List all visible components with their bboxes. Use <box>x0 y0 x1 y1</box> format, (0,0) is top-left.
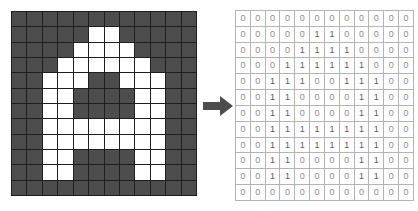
matrix-cell: 0 <box>384 58 399 74</box>
matrix-cell: 0 <box>354 42 369 58</box>
pixel-cell <box>120 27 134 41</box>
pixel-cell <box>43 27 57 41</box>
matrix-cell: 0 <box>324 74 339 90</box>
matrix-cell: 0 <box>310 90 325 106</box>
pixel-cell <box>27 12 41 26</box>
pixel-cell <box>166 104 180 118</box>
matrix-cell: 1 <box>354 137 369 153</box>
matrix-cell: 1 <box>265 137 280 153</box>
matrix-cell: 0 <box>384 74 399 90</box>
pixel-cell <box>105 43 119 57</box>
matrix-cell: 0 <box>250 11 265 27</box>
pixel-cell <box>151 135 165 149</box>
matrix-cell: 0 <box>236 74 251 90</box>
pixel-cell <box>166 73 180 87</box>
pixel-cell <box>135 104 149 118</box>
matrix-cell: 0 <box>250 153 265 169</box>
matrix-cell: 0 <box>310 11 325 27</box>
matrix-cell: 0 <box>236 169 251 185</box>
pixel-cell <box>43 181 57 195</box>
pixel-cell <box>27 89 41 103</box>
matrix-body: 0000000000000000011000000000111100000001… <box>236 11 414 201</box>
pixel-cell <box>58 27 72 41</box>
matrix-cell: 0 <box>384 90 399 106</box>
pixel-cell <box>58 165 72 179</box>
matrix-cell: 1 <box>265 121 280 137</box>
pixel-cell <box>43 12 57 26</box>
pixel-cell <box>12 89 26 103</box>
binary-matrix-table: 0000000000000000011000000000111100000001… <box>235 10 414 201</box>
matrix-cell: 1 <box>280 169 295 185</box>
matrix-cell: 0 <box>295 169 310 185</box>
matrix-cell: 0 <box>399 90 414 106</box>
pixel-cell <box>182 43 196 57</box>
matrix-cell: 0 <box>399 137 414 153</box>
matrix-cell: 0 <box>384 26 399 42</box>
matrix-cell: 0 <box>399 58 414 74</box>
pixel-cell <box>58 181 72 195</box>
pixel-cell <box>58 119 72 133</box>
arrow-right-icon <box>203 93 233 119</box>
pixel-cell <box>182 58 196 72</box>
matrix-cell: 1 <box>295 58 310 74</box>
matrix-cell: 1 <box>324 121 339 137</box>
matrix-cell: 0 <box>324 185 339 201</box>
matrix-cell: 1 <box>310 58 325 74</box>
pixel-cell <box>105 150 119 164</box>
pixel-cell <box>89 58 103 72</box>
pixel-cell <box>120 89 134 103</box>
matrix-cell: 0 <box>295 11 310 27</box>
pixel-cell <box>135 150 149 164</box>
pixel-cell <box>89 27 103 41</box>
pixel-cell <box>12 181 26 195</box>
matrix-cell: 0 <box>236 90 251 106</box>
matrix-cell: 0 <box>250 58 265 74</box>
pixel-cell <box>12 73 26 87</box>
matrix-cell: 1 <box>339 58 354 74</box>
matrix-cell: 1 <box>265 153 280 169</box>
pixel-cell <box>166 181 180 195</box>
matrix-cell: 0 <box>250 42 265 58</box>
matrix-cell: 0 <box>354 26 369 42</box>
matrix-cell: 1 <box>310 42 325 58</box>
matrix-cell: 0 <box>265 185 280 201</box>
matrix-cell: 0 <box>384 11 399 27</box>
matrix-cell: 1 <box>295 137 310 153</box>
matrix-cell: 0 <box>250 121 265 137</box>
matrix-cell: 0 <box>399 74 414 90</box>
matrix-cell: 0 <box>339 169 354 185</box>
matrix-cell: 0 <box>295 90 310 106</box>
matrix-cell: 0 <box>295 26 310 42</box>
matrix-cell: 0 <box>280 11 295 27</box>
pixel-cell <box>58 135 72 149</box>
matrix-cell: 1 <box>265 90 280 106</box>
matrix-cell: 1 <box>324 58 339 74</box>
pixel-cell <box>43 73 57 87</box>
matrix-row: 000011110000 <box>236 42 414 58</box>
matrix-row: 001100001100 <box>236 105 414 121</box>
pixel-cell <box>135 119 149 133</box>
pixel-cell <box>27 135 41 149</box>
pixel-cell <box>120 150 134 164</box>
matrix-cell: 0 <box>324 153 339 169</box>
matrix-cell: 0 <box>399 26 414 42</box>
pixel-cell <box>166 58 180 72</box>
pixel-cell <box>135 73 149 87</box>
matrix-cell: 0 <box>399 169 414 185</box>
pixel-cell <box>120 43 134 57</box>
pixel-cell <box>135 135 149 149</box>
pixel-cell <box>43 119 57 133</box>
matrix-cell: 1 <box>310 121 325 137</box>
matrix-cell: 0 <box>339 90 354 106</box>
matrix-cell: 1 <box>369 105 384 121</box>
matrix-cell: 0 <box>310 185 325 201</box>
pixel-cell <box>58 89 72 103</box>
pixel-cell <box>135 43 149 57</box>
matrix-cell: 0 <box>354 11 369 27</box>
pixel-cell <box>166 89 180 103</box>
pixel-cell <box>12 135 26 149</box>
pixel-cell <box>12 12 26 26</box>
pixel-cell <box>27 58 41 72</box>
matrix-cell: 1 <box>324 137 339 153</box>
pixel-cell <box>58 150 72 164</box>
